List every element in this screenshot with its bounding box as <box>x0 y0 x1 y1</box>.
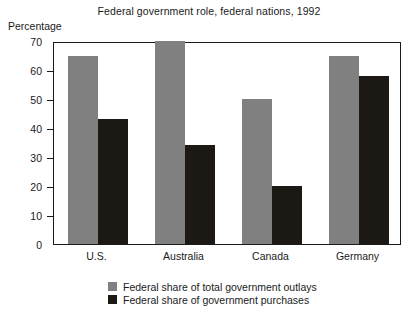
legend-label: Federal share of government purchases <box>123 294 309 306</box>
chart-title: Federal government role, federal nations… <box>0 5 418 17</box>
bar-outlays-us <box>68 56 98 245</box>
legend-item: Federal share of total government outlay… <box>108 280 317 293</box>
y-axis-tick-label: 30 <box>0 153 42 163</box>
x-axis-category-label: Australia <box>140 250 227 262</box>
y-axis-tick-label: 10 <box>0 211 42 221</box>
y-axis-title: Percentage <box>8 20 62 32</box>
y-axis-tick-label: 70 <box>0 37 42 47</box>
legend-swatch-purchases <box>108 295 117 304</box>
y-axis-tick-label: 60 <box>0 66 42 76</box>
x-axis-category-label: U.S. <box>53 250 140 262</box>
legend-label: Federal share of total government outlay… <box>123 281 317 293</box>
x-axis-category-label: Canada <box>227 250 314 262</box>
y-axis-tick-label: 40 <box>0 124 42 134</box>
bar-outlays-canada <box>242 99 272 244</box>
x-axis-category-label: Germany <box>314 250 401 262</box>
bar-outlays-australia <box>155 41 185 244</box>
bar-chart-figure: Federal government role, federal nations… <box>0 0 418 322</box>
chart-legend: Federal share of total government outlay… <box>108 280 317 306</box>
legend-item: Federal share of government purchases <box>108 293 317 306</box>
y-axis-tick-label: 20 <box>0 182 42 192</box>
bar-purchases-germany <box>359 76 389 244</box>
bar-outlays-germany <box>329 56 359 245</box>
bar-purchases-canada <box>272 186 302 244</box>
bar-purchases-australia <box>185 145 215 244</box>
plot-area <box>53 42 401 245</box>
y-axis-tick-label: 50 <box>0 95 42 105</box>
legend-swatch-outlays <box>108 282 117 291</box>
bars-container <box>54 43 400 244</box>
y-axis-tick-label: 0 <box>0 240 42 250</box>
bar-purchases-us <box>98 119 128 244</box>
